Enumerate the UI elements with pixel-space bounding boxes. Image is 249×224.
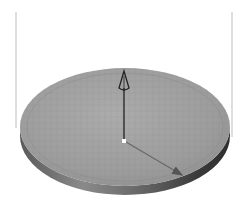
origin-point: [122, 139, 126, 143]
disc-scene: [0, 0, 249, 224]
disc-texture: [20, 68, 230, 186]
